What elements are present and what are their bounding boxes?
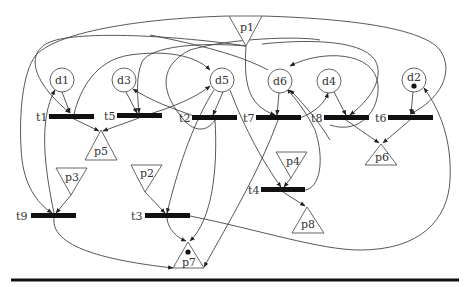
- label-p8: p8: [301, 218, 315, 231]
- arc-t1-p5: [72, 118, 99, 131]
- transition-t6: t6: [375, 112, 433, 125]
- transition-t1: t1: [36, 111, 94, 124]
- arc-d4-t8: [334, 92, 346, 115]
- label-d6: d6: [273, 75, 287, 88]
- place-d2: d2: [402, 68, 426, 92]
- arc-t7-p7: [204, 120, 278, 267]
- label-t8: t8: [311, 112, 322, 125]
- place-p2: p2: [131, 165, 162, 192]
- label-t3: t3: [131, 210, 142, 223]
- arc-p4-t4: [284, 178, 291, 187]
- label-t2: t2: [179, 112, 190, 125]
- label-p1: p1: [240, 21, 254, 34]
- place-d4: d4: [317, 69, 341, 93]
- transition-t4: t4: [248, 184, 305, 197]
- place-d5: d5: [210, 68, 234, 92]
- place-p4: p4: [276, 152, 307, 178]
- arc-t4-p8: [283, 192, 305, 206]
- arc-t9-p7: [54, 218, 173, 268]
- transition-t2: t2: [179, 112, 237, 125]
- arc-t5-d5: [150, 86, 210, 114]
- place-p3: p3: [56, 168, 87, 195]
- label-t9: t9: [16, 210, 27, 223]
- token-icon: [185, 249, 190, 254]
- label-d4: d4: [322, 75, 336, 88]
- place-d1: d1: [50, 68, 74, 92]
- arcs: [21, 16, 451, 268]
- transition-t9: t9: [16, 210, 76, 223]
- label-p6: p6: [375, 151, 389, 164]
- place-d3: d3: [112, 68, 136, 92]
- arc-t6-p6: [383, 120, 410, 143]
- label-t4: t4: [248, 184, 259, 197]
- arc-t3-p7: [167, 218, 186, 241]
- label-d5: d5: [215, 74, 229, 87]
- label-t6: t6: [375, 112, 386, 125]
- label-t7: t7: [243, 112, 254, 125]
- label-p4: p4: [286, 155, 300, 168]
- place-p5: p5: [85, 130, 117, 160]
- place-p7: p7: [173, 242, 204, 269]
- arc-p1-t6: [262, 16, 446, 114]
- arc-p2-t3: [145, 192, 165, 213]
- label-t1: t1: [36, 111, 47, 124]
- arc-d5-t2: [213, 92, 223, 115]
- label-d1: d1: [55, 74, 69, 87]
- label-p7: p7: [182, 256, 196, 269]
- transition-t5: t5: [104, 110, 162, 123]
- token-icon: [411, 83, 416, 88]
- place-d6: d6: [268, 69, 292, 93]
- transition-t3: t3: [131, 210, 190, 223]
- arc-d6-t7: [277, 93, 279, 115]
- label-p3: p3: [65, 171, 79, 184]
- label-p5: p5: [94, 145, 108, 158]
- petri-net-diagram: p1 p5 p6 p3 p2 p4 p8 p7 d1 d3 d5: [0, 0, 468, 287]
- arc-d2-t6: [411, 92, 413, 114]
- label-t5: t5: [104, 110, 115, 123]
- arc-t2-p7: [190, 120, 216, 241]
- label-p2: p2: [140, 167, 154, 180]
- arc-p3-t9: [56, 195, 71, 213]
- place-p8: p8: [292, 207, 324, 233]
- label-d3: d3: [117, 74, 131, 87]
- place-p6: p6: [365, 144, 397, 165]
- label-d2: d2: [407, 71, 421, 84]
- arc-t9-d1: [45, 90, 55, 213]
- arc-d3-t5: [126, 92, 137, 113]
